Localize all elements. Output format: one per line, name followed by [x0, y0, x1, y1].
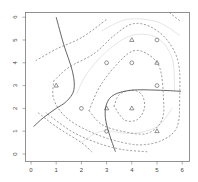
- svm-contour-plot: 0123456 0123456: [0, 0, 198, 182]
